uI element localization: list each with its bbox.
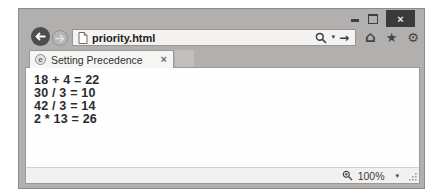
tab-close-icon[interactable]: × — [161, 54, 167, 65]
zoom-dropdown-icon[interactable]: ▾ — [395, 172, 399, 180]
favorites-star-icon[interactable]: ★ — [386, 31, 398, 44]
address-bar[interactable]: priority.html ▾ → — [72, 29, 356, 46]
home-icon[interactable]: ⌂ — [365, 30, 376, 45]
tab-setting-precedence[interactable]: e Setting Precedence × — [29, 50, 174, 68]
tab-title: Setting Precedence — [51, 54, 156, 66]
forward-button[interactable] — [52, 30, 68, 46]
maximize-icon[interactable] — [368, 14, 378, 24]
browser-window: × priority.html ▾ → ⌂ ★ ⚙ e Setting Prec… — [18, 8, 425, 189]
page-icon — [78, 32, 88, 44]
search-dropdown-icon[interactable]: ▾ — [331, 34, 335, 41]
back-arrow-icon — [35, 32, 46, 41]
back-button[interactable] — [31, 27, 50, 46]
search-icon[interactable] — [315, 32, 327, 44]
page-area: 18 + 4 = 22 30 / 3 = 10 42 / 3 = 14 2 * … — [25, 67, 420, 184]
minimize-icon[interactable] — [351, 19, 359, 22]
page-content: 18 + 4 = 22 30 / 3 = 10 42 / 3 = 14 2 * … — [26, 68, 419, 167]
forward-arrow-icon — [55, 34, 65, 43]
result-line: 2 * 13 = 26 — [34, 113, 419, 126]
resize-grip[interactable] — [409, 173, 417, 181]
zoom-level[interactable]: 100% — [358, 170, 385, 182]
settings-gear-icon[interactable]: ⚙ — [407, 31, 419, 44]
window-close-button[interactable]: × — [386, 10, 415, 27]
go-arrow-icon[interactable]: → — [339, 32, 349, 44]
zoom-magnifier-icon[interactable] — [342, 170, 353, 181]
tab-favicon-icon: e — [35, 54, 46, 65]
status-bar: 100% ▾ — [26, 167, 419, 183]
toolbar-icons: ⌂ ★ ⚙ — [365, 30, 419, 45]
new-tab-button[interactable] — [175, 50, 194, 67]
address-input[interactable]: priority.html — [92, 32, 311, 44]
